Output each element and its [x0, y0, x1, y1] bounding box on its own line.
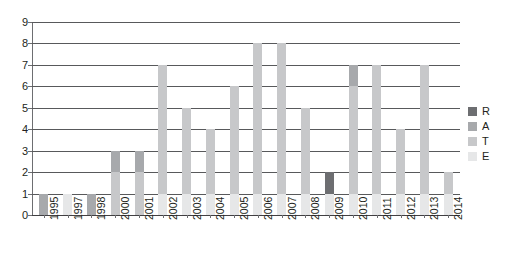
x-tick-mark	[448, 215, 449, 218]
x-tick-label: 2007	[287, 197, 298, 220]
x-tick-label: 2001	[144, 197, 155, 220]
y-tick-mark	[28, 43, 32, 44]
stacked-bar-chart: 0123456789 19951997199820002001200220032…	[0, 0, 510, 261]
legend-label: R	[482, 106, 490, 117]
x-tick-mark	[68, 215, 69, 218]
x-tick-label: 2009	[334, 197, 345, 220]
bar-segment	[158, 194, 167, 215]
y-tick-label: 4	[2, 124, 28, 135]
legend-item[interactable]: T	[468, 134, 490, 149]
bar-segment	[182, 194, 191, 215]
x-tick-mark	[329, 215, 330, 218]
legend-swatch	[468, 107, 477, 116]
legend-item[interactable]: R	[468, 104, 490, 119]
legend-label: T	[482, 136, 489, 147]
y-tick-label: 1	[2, 188, 28, 199]
y-tick-mark	[28, 172, 32, 173]
x-tick-label: 2012	[406, 197, 417, 220]
bar-segment	[63, 194, 72, 215]
bar-segment	[206, 129, 215, 193]
bar[interactable]	[277, 43, 286, 215]
bar[interactable]	[182, 108, 191, 215]
legend-label: E	[482, 151, 489, 162]
bar[interactable]	[63, 194, 72, 215]
x-tick-mark	[401, 215, 402, 218]
y-tick-mark	[28, 108, 32, 109]
bar-segment	[301, 108, 310, 194]
x-tick-label: 2005	[239, 197, 250, 220]
y-tick-mark	[28, 129, 32, 130]
bar-segment	[372, 65, 381, 194]
x-tick-mark	[282, 215, 283, 218]
bar[interactable]	[349, 65, 358, 215]
x-tick-label: 1998	[96, 197, 107, 220]
x-tick-label: 2006	[263, 197, 274, 220]
bar-segment	[277, 194, 286, 215]
y-tick-mark	[28, 194, 32, 195]
bar[interactable]	[420, 65, 429, 215]
x-tick-mark	[424, 215, 425, 218]
x-tick-label: 2004	[215, 197, 226, 220]
x-tick-mark	[353, 215, 354, 218]
bar-segment	[372, 194, 381, 215]
x-tick-mark	[115, 215, 116, 218]
bar-segment	[420, 65, 429, 194]
gridline	[32, 65, 460, 66]
bar[interactable]	[253, 43, 262, 215]
bar-segment	[396, 129, 405, 193]
y-tick-label: 5	[2, 102, 28, 113]
bar-segment	[277, 43, 286, 193]
y-tick-mark	[28, 215, 32, 216]
legend-swatch	[468, 152, 477, 161]
y-tick-label: 9	[2, 17, 28, 28]
x-tick-label: 2013	[429, 197, 440, 220]
x-tick-label: 1997	[73, 197, 84, 220]
bar[interactable]	[158, 65, 167, 215]
x-tick-label: 2010	[358, 197, 369, 220]
bar-segment	[396, 194, 405, 215]
gridline	[32, 43, 460, 44]
gridline	[32, 86, 460, 87]
bar[interactable]	[372, 65, 381, 215]
gridline	[32, 108, 460, 109]
x-tick-mark	[187, 215, 188, 218]
y-axis: 0123456789	[0, 0, 28, 261]
legend-item[interactable]: E	[468, 149, 490, 164]
bar-segment	[230, 86, 239, 193]
x-tick-mark	[305, 215, 306, 218]
bar-segment	[444, 172, 453, 193]
bar-segment	[349, 65, 358, 86]
x-tick-label: 2003	[192, 197, 203, 220]
y-tick-label: 2	[2, 167, 28, 178]
bar-segment	[349, 86, 358, 193]
bar-segment	[135, 151, 144, 172]
x-tick-mark	[44, 215, 45, 218]
y-tick-label: 0	[2, 210, 28, 221]
plot-area	[32, 22, 460, 215]
y-tick-mark	[28, 151, 32, 152]
bar[interactable]	[230, 86, 239, 215]
x-tick-mark	[91, 215, 92, 218]
legend-swatch	[468, 137, 477, 146]
y-tick-label: 7	[2, 59, 28, 70]
y-tick-mark	[28, 86, 32, 87]
y-tick-mark	[28, 22, 32, 23]
legend-item[interactable]: A	[468, 119, 490, 134]
y-tick-mark	[28, 65, 32, 66]
x-tick-mark	[210, 215, 211, 218]
x-tick-mark	[258, 215, 259, 218]
x-tick-label: 1995	[49, 197, 60, 220]
gridline	[32, 22, 460, 23]
y-tick-label: 3	[2, 145, 28, 156]
bar-segment	[325, 172, 334, 193]
x-tick-mark	[139, 215, 140, 218]
legend-swatch	[468, 122, 477, 131]
bar-segment	[182, 108, 191, 194]
x-tick-label: 2008	[310, 197, 321, 220]
bar[interactable]	[396, 129, 405, 215]
x-tick-mark	[163, 215, 164, 218]
y-tick-label: 8	[2, 38, 28, 49]
x-tick-label: 2014	[453, 197, 464, 220]
y-tick-label: 6	[2, 81, 28, 92]
bar-segment	[158, 65, 167, 194]
